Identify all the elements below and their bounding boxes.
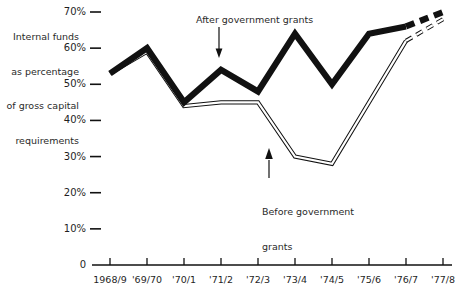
arrow-down-icon: [216, 27, 223, 58]
series-after-line: [110, 26, 406, 102]
series-after-projection-line: [406, 12, 443, 26]
arrow-up-icon: [265, 148, 273, 178]
series-after-government-grants: [110, 12, 443, 102]
series-before-government-grants: [110, 19, 443, 164]
